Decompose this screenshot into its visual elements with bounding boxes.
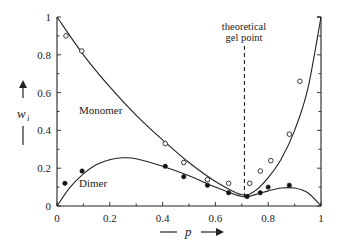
chart: 00.20.40.60.8100.20.40.60.81 theoretical… bbox=[0, 0, 340, 246]
monomer-data-point bbox=[298, 79, 303, 84]
monomer-data-point bbox=[247, 181, 252, 186]
y-axis-label: w i bbox=[17, 80, 30, 145]
dimer-data-point bbox=[266, 185, 270, 189]
svg-text:w: w bbox=[17, 106, 26, 121]
dimer-data-point bbox=[205, 183, 209, 187]
svg-text:i: i bbox=[27, 113, 30, 123]
dimer-data-point bbox=[245, 194, 249, 198]
y-tick-label: 0 bbox=[46, 200, 52, 212]
monomer-data-point bbox=[80, 49, 85, 54]
monomer-data-point bbox=[205, 177, 210, 182]
dimer-data-point bbox=[63, 181, 67, 185]
arrow-up-icon bbox=[19, 80, 27, 88]
dimer-data-point bbox=[258, 191, 262, 195]
svg-text:p: p bbox=[184, 224, 192, 239]
data-points bbox=[63, 34, 302, 199]
x-tick-label: 0.4 bbox=[156, 212, 170, 224]
monomer-data-point bbox=[258, 169, 263, 174]
y-tick-label: 0.2 bbox=[37, 162, 51, 174]
x-tick-label: 0.6 bbox=[209, 212, 223, 224]
y-tick-label: 0.6 bbox=[37, 87, 51, 99]
monomer-data-point bbox=[163, 141, 168, 146]
dimer-data-point bbox=[163, 164, 167, 168]
monomer-data-point bbox=[269, 158, 274, 163]
monomer-label: Monomer bbox=[79, 104, 123, 116]
y-tick-label: 0.4 bbox=[37, 124, 51, 136]
x-tick-label: 0 bbox=[54, 212, 60, 224]
y-tick-label: 0.8 bbox=[37, 49, 51, 61]
dimer-data-point bbox=[182, 175, 186, 179]
monomer-data-point bbox=[181, 160, 186, 165]
axes: 00.20.40.60.8100.20.40.60.81 bbox=[37, 11, 324, 224]
gel-label-line1: theoretical bbox=[222, 21, 266, 32]
dimer-data-point bbox=[80, 169, 84, 173]
x-tick-label: 0.2 bbox=[103, 212, 117, 224]
gel-label-line2: gel point bbox=[225, 32, 262, 43]
monomer-data-point bbox=[287, 132, 292, 137]
monomer-data-point bbox=[226, 181, 231, 186]
dimer-label: Dimer bbox=[79, 177, 107, 189]
monomer-data-point bbox=[64, 34, 69, 39]
arrow-right-icon bbox=[216, 228, 224, 236]
x-tick-label: 1 bbox=[318, 212, 324, 224]
y-tick-label: 1 bbox=[46, 11, 52, 23]
dimer-data-point bbox=[226, 191, 230, 195]
x-axis-label: p bbox=[160, 224, 224, 239]
dimer-data-point bbox=[287, 183, 291, 187]
x-tick-label: 0.8 bbox=[261, 212, 275, 224]
